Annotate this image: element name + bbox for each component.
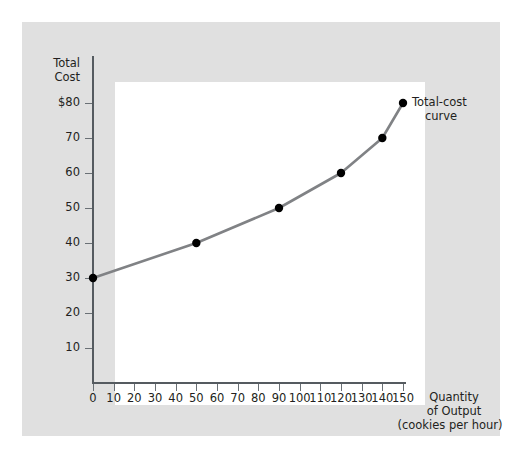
- total-cost-curve: [93, 103, 403, 278]
- data-point-150-80: [399, 99, 407, 107]
- data-point-120-60: [337, 169, 345, 177]
- curve-annotation-label: Total-cost curve: [412, 95, 498, 123]
- curve-annotation-line1: Total-cost: [412, 95, 467, 109]
- data-point-50-40: [192, 239, 200, 247]
- data-point-markers: [89, 99, 407, 282]
- data-point-140-70: [378, 134, 386, 142]
- chart-screenshot: Total Cost Quantity of Output (cookies p…: [0, 0, 518, 460]
- data-point-0-30: [89, 274, 97, 282]
- data-point-90-50: [275, 204, 283, 212]
- chart-curve-layer: [0, 0, 518, 460]
- curve-annotation-line2: curve: [412, 109, 470, 123]
